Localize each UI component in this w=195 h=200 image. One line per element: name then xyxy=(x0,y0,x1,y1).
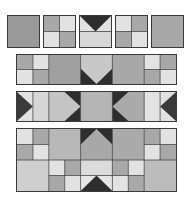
block-flying-geese-down xyxy=(79,15,112,48)
row-border-arrow-down xyxy=(16,54,177,85)
block-solid-mid xyxy=(7,15,40,48)
row-two-tier xyxy=(16,128,177,192)
block-four-patch-reversed xyxy=(115,15,148,48)
block-solid-midlight xyxy=(151,15,184,48)
row-chevrons xyxy=(16,91,177,122)
block-four-patch xyxy=(43,15,76,48)
